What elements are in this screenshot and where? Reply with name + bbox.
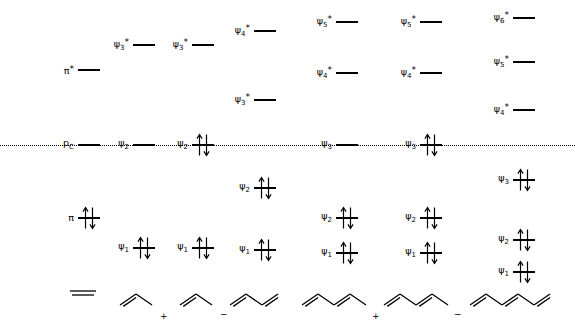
energy-level-bar [133, 144, 155, 146]
allyl-anion-structure: − [178, 290, 224, 310]
formal-charge-label: + [160, 312, 168, 321]
electron-pair-arrows [254, 177, 276, 199]
energy-level-label: π* [64, 64, 74, 76]
electron-pair-arrows [133, 237, 155, 259]
energy-level-bar [336, 21, 358, 23]
energy-level-label: ψ4* [401, 65, 416, 81]
energy-level-hexatriene-psi5-star: ψ5* [513, 55, 535, 69]
energy-level-ethylene-psi-star: π* [78, 63, 100, 77]
energy-level-bar [336, 144, 358, 146]
energy-level-label: ψ2 [405, 211, 416, 225]
pentadienyl-cation-structure: + [300, 290, 378, 310]
energy-level-label: ψ2 [239, 181, 250, 195]
energy-level-label: ψ2 [118, 138, 129, 152]
energy-level-pentadienyl-cation-psi3: ψ3 [336, 138, 358, 152]
energy-level-bar [254, 99, 276, 101]
energy-level-label: ψ5* [401, 14, 416, 30]
energy-level-allyl-anion-psi2: ψ2 [192, 138, 214, 152]
energy-level-bar [133, 44, 155, 46]
energy-level-label: ψ3 [405, 138, 416, 152]
energy-level-label: ψ3* [173, 37, 188, 53]
electron-pair-arrows [420, 134, 442, 156]
energy-level-label: ψ5* [317, 14, 332, 30]
energy-level-label: ψ4* [235, 23, 250, 39]
formal-charge-label: − [454, 310, 462, 319]
pentadienyl-anion-structure: − [382, 290, 460, 310]
energy-level-allyl-anion-psi3-star: ψ3* [192, 38, 214, 52]
energy-level-label: ψ4* [494, 102, 509, 118]
energy-level-label: ψ5* [494, 54, 509, 70]
energy-level-bar [420, 21, 442, 23]
energy-level-bar [420, 72, 442, 74]
mo-energy-level-diagram: π*pCπψ3*ψ2ψ1ψ3*ψ2ψ1ψ4*ψ3*ψ2ψ1ψ5*ψ4*ψ3ψ2ψ… [0, 0, 575, 330]
energy-level-allyl-cation-psi2: ψ2 [133, 138, 155, 152]
energy-level-label: pC [63, 138, 74, 152]
formal-charge-label: + [372, 312, 380, 321]
energy-level-label: ψ3 [498, 173, 509, 187]
electron-pair-arrows [78, 207, 100, 229]
energy-level-ethylene-pc: pC [78, 138, 100, 152]
energy-level-butadiene-psi1: ψ1 [254, 243, 276, 257]
energy-level-hexatriene-psi2: ψ2 [513, 233, 535, 247]
energy-level-bar [78, 144, 100, 146]
energy-level-pentadienyl-cation-psi4-star: ψ4* [336, 66, 358, 80]
electron-pair-arrows [513, 229, 535, 251]
energy-level-label: ψ2 [498, 233, 509, 247]
energy-level-pentadienyl-cation-psi5-star: ψ5* [336, 15, 358, 29]
energy-level-label: ψ1 [118, 241, 129, 255]
energy-level-bar [254, 30, 276, 32]
hexatriene-structure [468, 290, 564, 310]
energy-level-label: ψ2 [321, 211, 332, 225]
electron-pair-arrows [420, 207, 442, 229]
electron-pair-arrows [192, 134, 214, 156]
energy-level-bar [513, 109, 535, 111]
energy-level-label: ψ3* [235, 92, 250, 108]
energy-level-label: ψ3 [321, 138, 332, 152]
energy-level-allyl-cation-psi3-star: ψ3* [133, 38, 155, 52]
energy-level-bar [192, 44, 214, 46]
electron-pair-arrows [192, 237, 214, 259]
ethylene-structure [68, 282, 98, 302]
butadiene-structure [228, 290, 290, 310]
energy-level-butadiene-psi3-star: ψ3* [254, 93, 276, 107]
energy-level-pentadienyl-cation-psi1: ψ1 [336, 246, 358, 260]
electron-pair-arrows [513, 169, 535, 191]
energy-level-bar [336, 72, 358, 74]
energy-level-allyl-cation-psi1: ψ1 [133, 241, 155, 255]
energy-level-label: ψ4* [317, 65, 332, 81]
energy-level-hexatriene-psi1: ψ1 [513, 265, 535, 279]
energy-level-pentadienyl-cation-psi2: ψ2 [336, 211, 358, 225]
energy-level-pentadienyl-anion-psi1: ψ1 [420, 246, 442, 260]
energy-level-label: ψ1 [405, 246, 416, 260]
energy-level-label: ψ3* [114, 37, 129, 53]
formal-charge-label: − [220, 310, 228, 319]
electron-pair-arrows [336, 242, 358, 264]
energy-level-pentadienyl-anion-psi2: ψ2 [420, 211, 442, 225]
energy-level-butadiene-psi2: ψ2 [254, 181, 276, 195]
electron-pair-arrows [420, 242, 442, 264]
energy-level-label: ψ1 [239, 243, 250, 257]
energy-level-bar [513, 17, 535, 19]
energy-level-label: ψ6* [494, 10, 509, 26]
energy-level-label: π [68, 213, 74, 223]
energy-level-pentadienyl-anion-psi4-star: ψ4* [420, 66, 442, 80]
energy-level-hexatriene-psi4-star: ψ4* [513, 103, 535, 117]
electron-pair-arrows [513, 261, 535, 283]
energy-level-label: ψ1 [498, 265, 509, 279]
electron-pair-arrows [336, 207, 358, 229]
energy-level-hexatriene-psi3: ψ3 [513, 173, 535, 187]
energy-level-pentadienyl-anion-psi3: ψ3 [420, 138, 442, 152]
energy-level-label: ψ2 [177, 138, 188, 152]
energy-level-label: ψ1 [177, 241, 188, 255]
energy-level-label: ψ1 [321, 246, 332, 260]
energy-level-ethylene-pi: π [78, 211, 100, 225]
energy-level-bar [78, 69, 100, 71]
energy-level-bar [513, 61, 535, 63]
energy-level-hexatriene-psi6-star: ψ6* [513, 11, 535, 25]
energy-level-butadiene-psi4-star: ψ4* [254, 24, 276, 38]
allyl-cation-structure: + [118, 290, 164, 310]
energy-level-allyl-anion-psi1: ψ1 [192, 241, 214, 255]
electron-pair-arrows [254, 239, 276, 261]
energy-level-pentadienyl-anion-psi5-star: ψ5* [420, 15, 442, 29]
